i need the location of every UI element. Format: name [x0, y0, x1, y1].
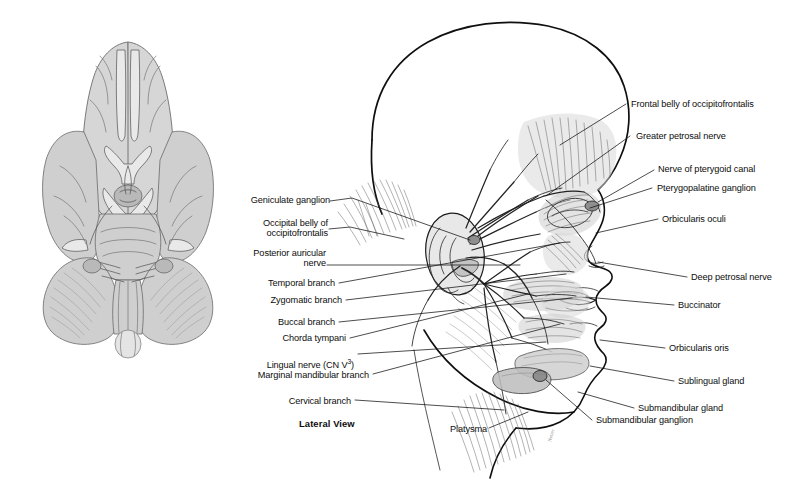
label-zygomatic-branch: Zygomatic branch	[180, 295, 342, 306]
view-caption: Lateral View	[299, 419, 355, 430]
label-frontal-belly-occipitofrontalis: Frontal belly of occipitofrontalis	[631, 99, 754, 110]
label-submandibular-gland: Submandibular gland	[638, 403, 723, 414]
label-occipital-belly-line2: occipitofrontalis	[170, 228, 328, 239]
label-posterior-auricular-nerve-line2: nerve	[164, 258, 326, 269]
leader-submandibular-gland	[578, 392, 634, 408]
label-pterygopalatine-ganglion: Pterygopalatine ganglion	[657, 183, 756, 194]
label-submandibular-ganglion: Submandibular ganglion	[596, 415, 693, 426]
label-lingual-nerve-suffix: )	[351, 360, 354, 370]
label-geniculate-ganglion: Geniculate ganglion	[170, 195, 330, 206]
leader-cervical-branch	[355, 400, 504, 410]
salivary-glands	[493, 349, 589, 394]
label-chorda-tympani: Chorda tympani	[190, 333, 346, 344]
anatomy-plate: Netter	[0, 0, 800, 499]
label-buccinator: Buccinator	[678, 300, 720, 311]
label-lingual-nerve-main: Lingual nerve (CN V	[267, 360, 348, 370]
label-sublingual-gland: Sublingual gland	[678, 376, 744, 387]
leader-orbicularis-oculi	[596, 219, 658, 233]
label-platysma: Platysma	[450, 424, 487, 435]
label-temporal-branch: Temporal branch	[180, 278, 335, 289]
label-marginal-mandibular-branch: Marginal mandibular branch	[160, 370, 369, 381]
label-occipital-belly-line1: Occipital belly of	[170, 218, 328, 229]
label-buccal-branch: Buccal branch	[190, 317, 335, 328]
artist-signature: Netter	[547, 429, 555, 443]
label-orbicularis-oris: Orbicularis oris	[669, 343, 729, 354]
leader-occipital-belly	[329, 227, 404, 239]
label-deep-petrosal-nerve: Deep petrosal nerve	[691, 272, 772, 283]
label-greater-petrosal-nerve: Greater petrosal nerve	[636, 131, 726, 142]
frontal-belly-muscle	[518, 113, 616, 198]
neck-line-posterior	[414, 350, 440, 470]
leader-orbicularis-oris	[600, 340, 665, 348]
leader-sublingual-gland	[590, 366, 674, 381]
label-nerve-of-pterygoid-canal: Nerve of pterygoid canal	[658, 164, 755, 175]
label-orbicularis-oculi: Orbicularis oculi	[662, 214, 726, 225]
leader-buccinator	[586, 297, 674, 305]
leader-lingual-nerve	[358, 342, 546, 354]
label-posterior-auricular-nerve-line1: Posterior auricular	[164, 248, 326, 259]
occipitalis-striations	[338, 180, 416, 245]
label-cervical-branch: Cervical branch	[200, 396, 351, 407]
